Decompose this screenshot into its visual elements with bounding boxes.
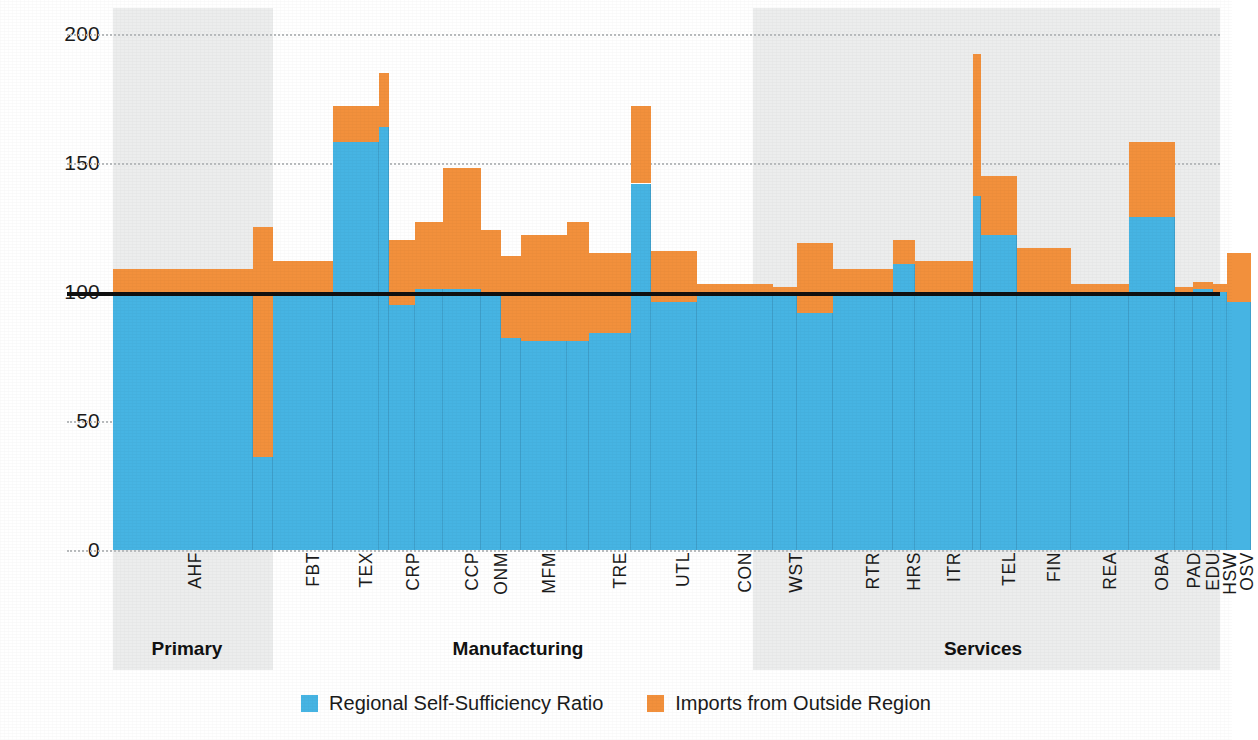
bar-segment-self-sufficiency	[1175, 292, 1193, 550]
bar-segment-self-sufficiency	[833, 292, 893, 550]
bar-segment-imports	[273, 261, 333, 292]
legend-label: Imports from Outside Region	[675, 692, 931, 715]
bar-segment-self-sufficiency	[415, 289, 443, 550]
bar-segment-self-sufficiency	[113, 292, 253, 550]
bar	[1129, 8, 1175, 550]
bar-segment-imports	[1227, 253, 1251, 302]
bar	[893, 8, 915, 550]
bar-segment-self-sufficiency	[389, 305, 415, 550]
x-tick-label-hrs: HRS	[904, 552, 925, 591]
bar-segment-imports	[567, 222, 589, 341]
bar-segment-self-sufficiency	[1129, 217, 1175, 550]
bar	[981, 8, 1017, 550]
bar-segment-imports	[501, 256, 521, 339]
bar-segment-imports	[481, 230, 501, 292]
bar-segment-self-sufficiency	[651, 302, 697, 550]
bar	[651, 8, 697, 550]
x-tick-label-ahf: AHF	[185, 552, 206, 589]
bar-segment-self-sufficiency	[1213, 292, 1227, 550]
x-tick-label-itr: ITR	[944, 552, 965, 582]
bar	[973, 8, 981, 550]
bar	[1213, 8, 1227, 550]
reference-line-100	[67, 292, 1220, 296]
bar	[389, 8, 415, 550]
x-tick-label-tre: TRE	[610, 552, 631, 589]
bar-segment-self-sufficiency	[501, 338, 521, 550]
bar-segment-imports	[973, 54, 981, 196]
bar	[915, 8, 973, 550]
bar	[273, 8, 333, 550]
bar-segment-self-sufficiency	[567, 341, 589, 550]
bar-segment-self-sufficiency	[797, 313, 833, 550]
bar-segment-imports	[333, 106, 379, 142]
bar-segment-self-sufficiency	[333, 142, 379, 550]
bar-segment-imports	[443, 168, 481, 289]
group-label-primary: Primary	[152, 638, 223, 660]
x-tick-label-ccp: CCP	[462, 552, 483, 591]
bar-segment-imports	[521, 235, 567, 341]
x-tick-label-crp: CRP	[403, 552, 424, 591]
x-tick-label-osv: OSV	[1237, 552, 1258, 591]
x-tick-label-wst: WST	[786, 552, 807, 593]
x-tick-label-onm: ONM	[491, 552, 512, 595]
bar	[1175, 8, 1193, 550]
bar-segment-self-sufficiency	[981, 235, 1017, 550]
bar	[521, 8, 567, 550]
bar-segment-self-sufficiency	[973, 196, 981, 550]
bar	[481, 8, 501, 550]
x-tick-label-fin: FIN	[1044, 552, 1065, 582]
x-tick-label-con: CON	[735, 552, 756, 593]
bar-segment-self-sufficiency	[481, 292, 501, 550]
group-label-manufacturing: Manufacturing	[453, 638, 584, 660]
bar-segment-imports	[113, 269, 253, 292]
legend-item-imports: Imports from Outside Region	[647, 692, 931, 715]
bar-segment-self-sufficiency	[589, 333, 631, 550]
bar	[773, 8, 797, 550]
bar-segment-imports	[379, 73, 389, 127]
x-axis: AHFFBTTEXCRPCCPONMMFMTREUTLCONWSTRTRHRSI…	[113, 552, 1220, 670]
bar-segment-imports	[1129, 142, 1175, 217]
legend-label: Regional Self-Sufficiency Ratio	[329, 692, 603, 715]
bar-segment-imports	[1071, 284, 1129, 292]
bar	[631, 8, 651, 550]
bar-segment-imports	[253, 227, 273, 457]
x-tick-label-utl: UTL	[673, 552, 694, 587]
bar	[1017, 8, 1071, 550]
bar-segment-self-sufficiency	[893, 264, 915, 550]
bar-segment-self-sufficiency	[915, 292, 973, 550]
bar-segment-self-sufficiency	[697, 292, 773, 550]
bar	[253, 8, 273, 550]
x-tick-label-tel: TEL	[999, 552, 1020, 586]
bar-segment-self-sufficiency	[1071, 292, 1129, 550]
blue-square-icon	[301, 695, 318, 712]
bar-segment-imports	[697, 284, 773, 292]
bar-segment-self-sufficiency	[773, 292, 797, 550]
bar-segment-imports	[981, 176, 1017, 235]
bar	[1193, 8, 1213, 550]
x-tick-label-mfm: MFM	[539, 552, 560, 594]
bar-segment-self-sufficiency	[1193, 289, 1213, 550]
bar-segment-imports	[833, 269, 893, 292]
bar-segment-imports	[893, 240, 915, 263]
bar-segment-imports	[1193, 282, 1213, 290]
bar-segment-self-sufficiency	[521, 341, 567, 550]
bar	[567, 8, 589, 550]
x-tick-label-rtr: RTR	[863, 552, 884, 589]
bar-segment-imports	[797, 243, 833, 313]
group-label-services: Services	[944, 638, 1022, 660]
bar	[1071, 8, 1129, 550]
bar	[113, 8, 253, 550]
bar-segment-self-sufficiency	[631, 184, 651, 550]
legend-item-self-sufficiency: Regional Self-Sufficiency Ratio	[301, 692, 603, 715]
bar-segment-self-sufficiency	[379, 127, 389, 550]
y-axis: 200150100500	[0, 8, 100, 550]
x-tick-label-oba: OBA	[1152, 552, 1173, 591]
bar	[833, 8, 893, 550]
bar	[589, 8, 631, 550]
bar	[1227, 8, 1251, 550]
bar	[697, 8, 773, 550]
bar-segment-self-sufficiency	[1227, 302, 1251, 550]
bar-segment-self-sufficiency	[253, 457, 273, 550]
bar	[415, 8, 443, 550]
bar-segment-self-sufficiency	[1017, 292, 1071, 550]
